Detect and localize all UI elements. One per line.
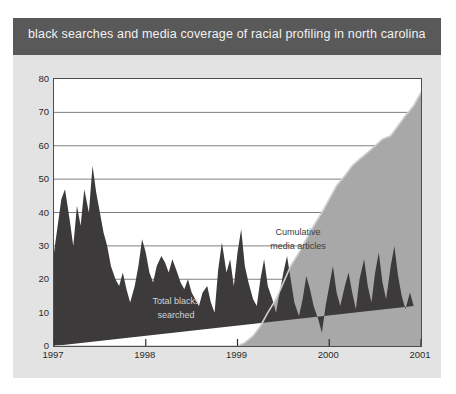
- plot-area: Total blacks searched Cumulative media a…: [53, 78, 422, 347]
- series-layer: [54, 92, 421, 346]
- page-title: black searches and media coverage of rac…: [28, 27, 426, 41]
- x-tick-label: 1998: [134, 349, 155, 360]
- y-tick-label: 20: [15, 273, 49, 284]
- annotation-line-1: Cumulative: [270, 225, 326, 239]
- chart-figure: black searches and media coverage of rac…: [13, 18, 441, 378]
- y-tick-label: 40: [15, 206, 49, 217]
- x-axis-tick-labels: 19971998199920002001: [53, 349, 420, 365]
- annotation-line-1: Total blacks: [152, 294, 199, 308]
- y-tick-label: 70: [15, 106, 49, 117]
- annotation-line-2: searched: [152, 308, 199, 322]
- chart-svg: [54, 79, 421, 346]
- annotation-cumulative-media-articles: Cumulative media articles: [270, 225, 326, 253]
- x-tick-label: 2000: [318, 349, 339, 360]
- annotation-line-2: media articles: [270, 239, 326, 253]
- chart-title-bar: black searches and media coverage of rac…: [13, 18, 441, 55]
- y-tick-label: 80: [15, 73, 49, 84]
- y-tick-label: 30: [15, 239, 49, 250]
- x-tick-label: 1999: [226, 349, 247, 360]
- chart-panel: 01020304050607080 Total blacks searched …: [13, 55, 441, 378]
- y-tick-label: 50: [15, 173, 49, 184]
- x-tick-label: 2001: [409, 349, 430, 360]
- y-axis-tick-labels: 01020304050607080: [13, 78, 49, 345]
- y-tick-label: 10: [15, 306, 49, 317]
- y-tick-label: 60: [15, 139, 49, 150]
- annotation-total-blacks-searched: Total blacks searched: [152, 294, 199, 322]
- x-tick-label: 1997: [42, 349, 63, 360]
